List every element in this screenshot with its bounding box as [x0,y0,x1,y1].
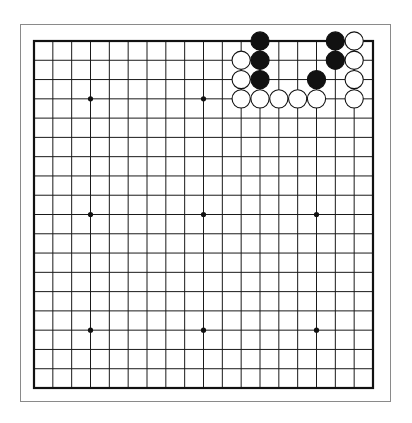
board-intersection[interactable] [251,321,270,340]
board-intersection[interactable] [251,263,270,282]
board-intersection[interactable] [175,224,194,243]
board-intersection[interactable] [232,243,251,262]
board-intersection[interactable] [213,205,232,224]
board-intersection[interactable] [175,166,194,185]
board-intersection[interactable] [269,263,288,282]
board-intersection[interactable] [251,359,270,378]
board-intersection[interactable] [100,321,119,340]
board-intersection[interactable] [213,340,232,359]
board-intersection[interactable] [326,128,345,147]
board-intersection[interactable] [138,205,157,224]
board-intersection[interactable] [81,243,100,262]
board-intersection[interactable] [326,301,345,320]
board-intersection[interactable] [81,31,100,50]
board-intersection[interactable] [345,147,364,166]
board-intersection[interactable] [100,166,119,185]
board-intersection[interactable] [138,282,157,301]
board-intersection[interactable] [138,340,157,359]
board-intersection[interactable] [364,359,383,378]
board-intersection[interactable] [62,224,81,243]
board-intersection[interactable] [81,108,100,127]
board-intersection[interactable] [119,282,138,301]
board-intersection[interactable] [138,147,157,166]
board-intersection[interactable] [175,89,194,108]
board-intersection[interactable] [43,301,62,320]
board-intersection[interactable] [138,243,157,262]
board-intersection[interactable] [269,224,288,243]
board-intersection[interactable] [232,128,251,147]
board-intersection[interactable] [138,301,157,320]
board-intersection[interactable] [364,89,383,108]
board-intersection[interactable] [175,147,194,166]
board-intersection[interactable] [288,51,307,70]
board-intersection[interactable] [269,31,288,50]
board-intersection[interactable] [288,263,307,282]
board-intersection[interactable] [119,205,138,224]
board-intersection[interactable] [43,89,62,108]
board-intersection[interactable] [175,359,194,378]
board-intersection[interactable] [307,378,326,397]
board-intersection[interactable] [364,321,383,340]
board-intersection[interactable] [251,186,270,205]
board-intersection[interactable] [43,263,62,282]
board-intersection[interactable] [326,51,345,70]
board-intersection[interactable] [307,224,326,243]
board-intersection[interactable] [81,70,100,89]
board-intersection[interactable] [43,378,62,397]
board-intersection[interactable] [194,31,213,50]
board-intersection[interactable] [25,108,44,127]
board-intersection[interactable] [194,166,213,185]
board-intersection[interactable] [43,321,62,340]
board-intersection[interactable] [100,378,119,397]
board-intersection[interactable] [43,282,62,301]
board-intersection[interactable] [345,70,364,89]
board-intersection[interactable] [25,282,44,301]
board-intersection[interactable] [62,205,81,224]
board-intersection[interactable] [251,301,270,320]
board-intersection[interactable] [81,282,100,301]
board-intersection[interactable] [345,108,364,127]
board-intersection[interactable] [269,321,288,340]
board-intersection[interactable] [100,89,119,108]
board-intersection[interactable] [269,378,288,397]
board-intersection[interactable] [43,108,62,127]
board-intersection[interactable] [251,108,270,127]
board-intersection[interactable] [62,70,81,89]
board-intersection[interactable] [175,321,194,340]
board-intersection[interactable] [81,166,100,185]
board-intersection[interactable] [25,51,44,70]
board-intersection[interactable] [138,108,157,127]
board-intersection[interactable] [345,31,364,50]
board-intersection[interactable] [175,186,194,205]
board-intersection[interactable] [288,205,307,224]
board-intersection[interactable] [288,31,307,50]
board-intersection[interactable] [326,359,345,378]
board-intersection[interactable] [307,301,326,320]
board-intersection[interactable] [345,205,364,224]
board-intersection[interactable] [345,378,364,397]
board-intersection[interactable] [43,340,62,359]
board-intersection[interactable] [175,31,194,50]
board-intersection[interactable] [232,108,251,127]
board-intersection[interactable] [326,108,345,127]
board-intersection[interactable] [364,340,383,359]
board-intersection[interactable] [25,31,44,50]
board-intersection[interactable] [119,301,138,320]
board-intersection[interactable] [119,359,138,378]
board-intersection[interactable] [194,243,213,262]
board-intersection[interactable] [194,108,213,127]
board-intersection[interactable] [138,89,157,108]
board-intersection[interactable] [175,282,194,301]
board-intersection[interactable] [194,89,213,108]
board-intersection[interactable] [251,378,270,397]
board-intersection[interactable] [81,147,100,166]
board-intersection[interactable] [288,70,307,89]
board-intersection[interactable] [307,282,326,301]
board-intersection[interactable] [232,51,251,70]
board-intersection[interactable] [62,166,81,185]
board-intersection[interactable] [175,378,194,397]
board-intersection[interactable] [364,147,383,166]
board-intersection[interactable] [138,166,157,185]
board-intersection[interactable] [288,166,307,185]
board-intersection[interactable] [62,243,81,262]
